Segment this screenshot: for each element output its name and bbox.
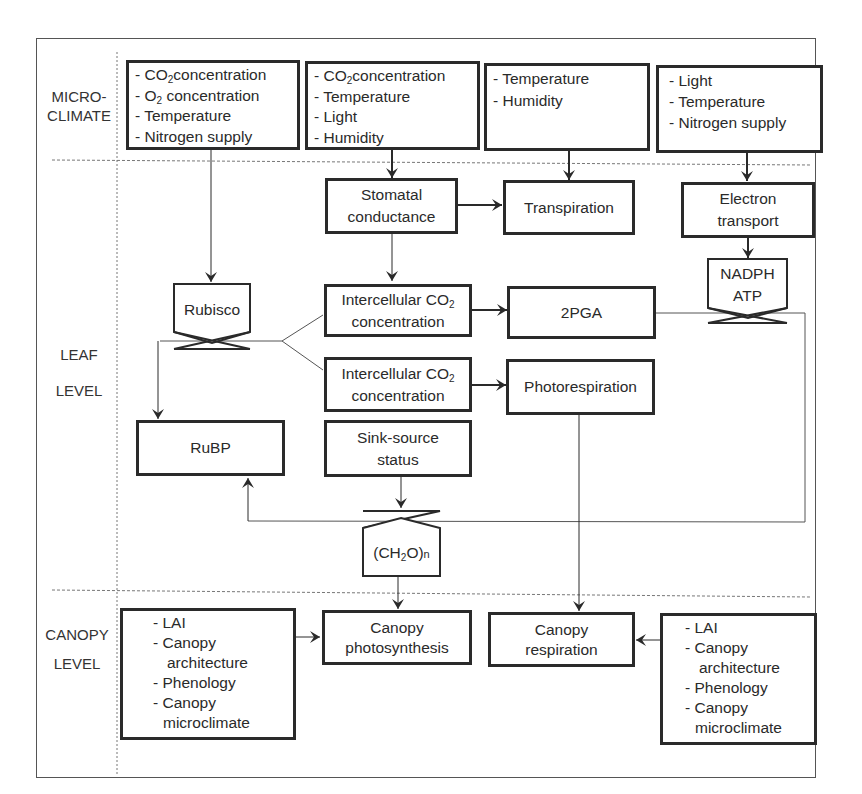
2pga-box: 2PGA <box>507 286 656 339</box>
rubisco-label: Rubisco <box>174 299 250 321</box>
nadph-atp-label: NADPH ATP <box>708 263 787 307</box>
canopy-respiration-box: Canopy respiration <box>488 612 635 667</box>
ch2o-label: (CH2O)n <box>363 542 440 565</box>
photorespiration-box: Photorespiration <box>506 359 655 415</box>
sink-source-status-box: Sink-source status <box>324 420 472 477</box>
level-label-microclimate: MICRO- CLIMATE <box>40 87 118 125</box>
microclimate-box-stomatal-factors: - CO2concentration - Temperature - Light… <box>305 61 480 150</box>
intercellular-co2-box-2: Intercellular CO2 concentration <box>324 357 472 412</box>
microclimate-box-transpiration-factors: - Temperature - Humidity <box>484 63 650 151</box>
electron-transport-box: Electron transport <box>681 182 815 238</box>
microclimate-box-rubisco-factors: - CO2concentration - O2 concentration - … <box>126 60 300 150</box>
stomatal-conductance-box: Stomatal conductance <box>325 178 458 234</box>
intercellular-co2-box-1: Intercellular CO2 concentration <box>324 284 472 337</box>
level-divider-leaf-canopy <box>52 590 810 597</box>
rubp-box: RuBP <box>136 420 285 476</box>
level-label-leaf: LEAF LEVEL <box>40 337 118 409</box>
level-label-canopy: CANOPY LEVEL <box>38 620 116 678</box>
canopy-factors-left-box: - LAI - Canopy architecture - Phenology … <box>120 608 296 740</box>
level-divider-micro-leaf <box>52 160 810 165</box>
canopy-factors-right-box: - LAI - Canopy architecture - Phenology … <box>660 613 817 745</box>
transpiration-box: Transpiration <box>503 180 635 235</box>
canopy-photosynthesis-box: Canopy photosynthesis <box>322 610 472 665</box>
microclimate-box-electron-factors: - Light - Temperature - Nitrogen supply <box>656 65 823 153</box>
